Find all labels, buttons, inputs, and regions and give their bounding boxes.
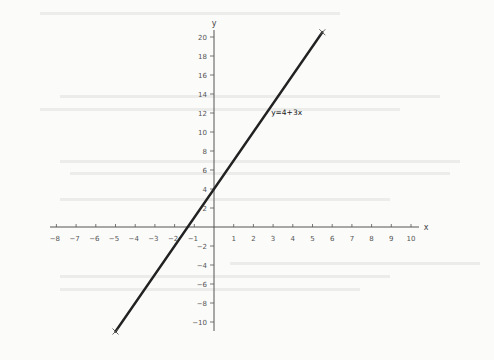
show-through-band <box>60 275 390 278</box>
show-through-band <box>40 12 340 15</box>
show-through-band <box>60 288 360 291</box>
scan-show-through <box>40 12 480 291</box>
x-tick-label: 5 <box>310 235 314 243</box>
x-tick-label: −4 <box>129 235 140 243</box>
y-tick-label: 14 <box>198 91 207 99</box>
y-tick-label: −2 <box>197 243 207 251</box>
y-tick-label: 4 <box>203 186 208 194</box>
x-tick-label: 6 <box>330 235 335 243</box>
show-through-band <box>70 172 450 175</box>
tick-marks <box>56 37 411 322</box>
y-tick-label: 6 <box>203 167 208 175</box>
x-tick-label: 3 <box>271 235 275 243</box>
line-series <box>116 32 323 331</box>
show-through-band <box>230 262 480 265</box>
y-tick-label: −4 <box>197 262 208 270</box>
x-tick-label: 7 <box>350 235 354 243</box>
y-axis-label: y <box>212 19 217 28</box>
equation-annotation: y=4+3x <box>271 108 303 117</box>
show-through-band <box>60 160 460 163</box>
y-tick-label: 2 <box>203 205 207 213</box>
y-tick-label: 18 <box>198 53 207 61</box>
y-tick-label: 16 <box>198 72 207 80</box>
axes <box>50 30 419 331</box>
x-tick-label: −5 <box>109 235 119 243</box>
x-tick-label: 4 <box>291 235 296 243</box>
x-tick-label: 1 <box>231 235 235 243</box>
x-tick-label: 9 <box>389 235 393 243</box>
show-through-band <box>60 198 390 201</box>
x-tick-label: −3 <box>148 235 158 243</box>
x-tick-label: 8 <box>369 235 373 243</box>
show-through-band <box>40 108 400 111</box>
y-tick-label: −10 <box>192 319 207 327</box>
y-tick-label: 8 <box>203 148 207 156</box>
y-tick-label: 20 <box>198 34 207 42</box>
y-tick-label: −6 <box>197 281 208 289</box>
show-through-band <box>60 95 440 98</box>
x-tick-label: 2 <box>251 235 255 243</box>
x-tick-label: −7 <box>69 235 79 243</box>
x-tick-label: −8 <box>50 235 60 243</box>
chart: −8−7−6−5−4−3−2−112345678910−10−8−6−4−224… <box>0 0 494 360</box>
x-axis-label: x <box>424 223 429 232</box>
y-tick-label: 10 <box>198 129 207 137</box>
y-tick-label: 12 <box>198 110 207 118</box>
x-tick-label: −6 <box>89 235 100 243</box>
plot-area: −8−7−6−5−4−3−2−112345678910−10−8−6−4−224… <box>0 0 494 360</box>
y-tick-label: −8 <box>197 300 207 308</box>
x-tick-label: −2 <box>168 235 178 243</box>
x-tick-label: 10 <box>407 235 416 243</box>
